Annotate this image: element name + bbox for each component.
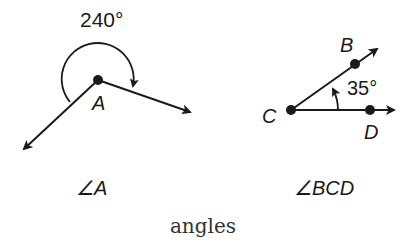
vertex-c-label: C xyxy=(262,105,276,128)
vertex-c-point xyxy=(286,105,296,115)
ray-a-right xyxy=(98,80,190,112)
arc-35 xyxy=(333,89,338,110)
point-b xyxy=(350,59,360,69)
point-d xyxy=(365,105,375,115)
angle-a-measure: 240° xyxy=(80,8,123,32)
vertex-a-point xyxy=(93,75,103,85)
angle-bcd-figure xyxy=(286,49,394,115)
angle-a-name: ∠A xyxy=(76,176,107,200)
figure-caption: angles xyxy=(0,214,406,238)
ray-a-left xyxy=(24,80,98,149)
point-d-label: D xyxy=(364,121,378,144)
vertex-a-label: A xyxy=(92,92,105,115)
angle-a-figure xyxy=(24,43,190,149)
angle-bcd-name: ∠BCD xyxy=(294,176,354,200)
point-b-label: B xyxy=(340,34,353,57)
angle-bcd-measure: 35° xyxy=(347,77,377,100)
